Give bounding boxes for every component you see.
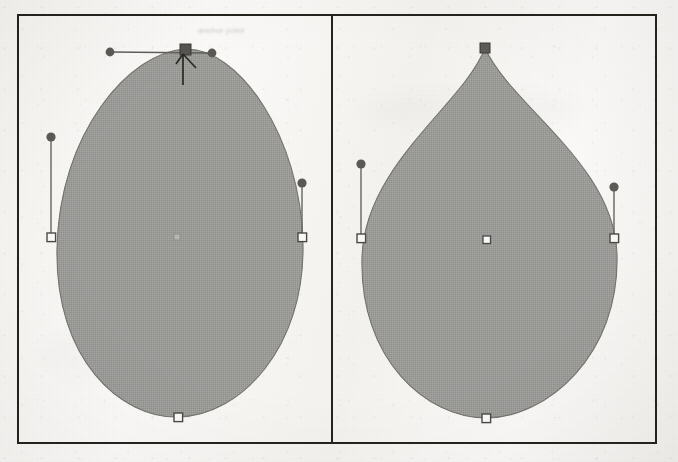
bottom-anchor[interactable]	[174, 413, 183, 422]
left-side-control-handle-dot[interactable]	[356, 159, 365, 168]
screenshot-root: anchor point	[0, 0, 678, 462]
left-side-anchor[interactable]	[47, 233, 56, 242]
top-left-control-handle-dot[interactable]	[106, 48, 115, 57]
left-canvas	[17, 14, 333, 444]
top-anchor-point[interactable]	[480, 43, 490, 53]
teardrop-shape-path[interactable]	[362, 48, 617, 418]
top-right-control-handle-dot[interactable]	[208, 49, 217, 58]
right-side-control-handle-dot[interactable]	[297, 178, 306, 187]
right-side-anchor[interactable]	[610, 234, 619, 243]
left-side-control-handle-dot[interactable]	[46, 132, 55, 141]
left-side-anchor[interactable]	[357, 234, 366, 243]
egg-shape-path[interactable]	[57, 49, 303, 417]
shape-center-marker	[174, 234, 180, 240]
right-side-anchor[interactable]	[298, 233, 307, 242]
top-anchor-point[interactable]	[180, 44, 191, 55]
top-control-handle-line	[110, 52, 212, 53]
right-side-control-handle-dot[interactable]	[609, 182, 618, 191]
smooth-point-panel	[17, 14, 333, 444]
shape-center-marker	[483, 236, 491, 244]
right-canvas	[333, 14, 657, 444]
corner-point-panel	[333, 14, 657, 444]
bottom-anchor[interactable]	[482, 414, 491, 423]
